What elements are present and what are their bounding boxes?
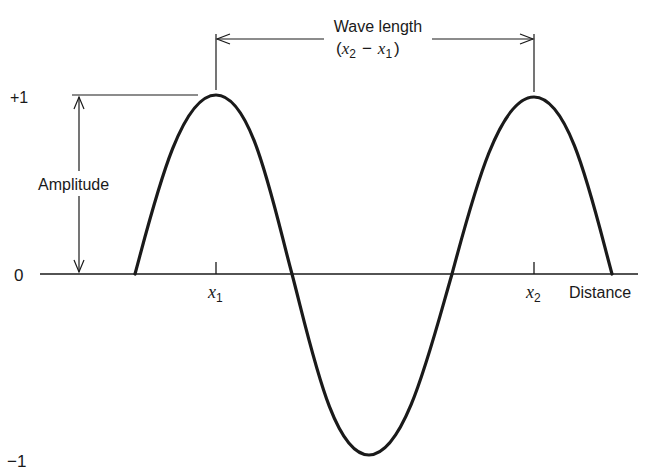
wave-diagram: +1 0 −1 Amplitude Wave length (x2−x1) x1… xyxy=(0,0,650,474)
x1-label: x1 xyxy=(207,282,223,305)
y-label-plus-one: +1 xyxy=(10,89,28,106)
amplitude-label: Amplitude xyxy=(38,176,109,193)
x2-label: x2 xyxy=(525,282,541,305)
x-axis-label: Distance xyxy=(569,284,631,301)
y-label-minus-one: −1 xyxy=(7,452,26,471)
y-label-zero: 0 xyxy=(14,266,23,285)
wavelength-label: Wave length xyxy=(334,18,422,35)
wavelength-arrow xyxy=(217,34,533,44)
wavelength-formula: (x2−x1) xyxy=(336,39,400,61)
sine-wave-curve xyxy=(135,95,612,455)
